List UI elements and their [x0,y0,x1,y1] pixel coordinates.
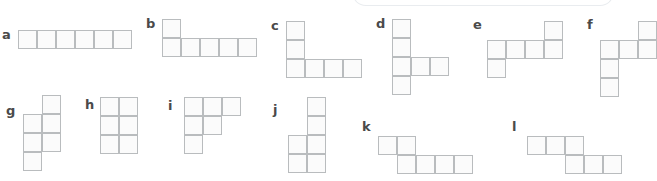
grid-cell [162,38,181,57]
figure-label-j: j [273,103,277,116]
grid-cell [487,40,506,59]
grid-cell [454,155,473,174]
grid-cell [544,21,563,40]
grid-cell [600,40,619,59]
figure-label-b: b [146,17,155,30]
grid-cell [435,155,454,174]
grid-cell [75,30,94,49]
grid-cell [307,154,326,173]
grid-cell [56,30,75,49]
grid-cell [119,116,138,135]
grid-cell [600,78,619,97]
grid-cell [286,40,305,59]
grid-cell [397,136,416,155]
grid-cell [288,135,307,154]
grid-cell [288,154,307,173]
grid-cell [184,135,203,154]
grid-cell [307,135,326,154]
figure-label-l: l [512,120,516,133]
grid-cell [37,30,56,49]
grid-cell [392,57,411,76]
grid-cell [23,114,42,133]
figure-label-a: a [2,28,11,41]
grid-cell [430,57,449,76]
grid-cell [113,30,132,49]
figure-label-e: e [473,18,482,31]
grid-cell [638,40,657,59]
grid-cell [584,155,603,174]
grid-cell [525,40,544,59]
grid-cell [100,97,119,116]
grid-cell [222,97,241,116]
grid-cell [119,97,138,116]
grid-cell [286,21,305,40]
grid-cell [544,40,563,59]
grid-cell [565,155,584,174]
grid-cell [203,116,222,135]
figure-label-k: k [362,120,371,133]
grid-cell [378,136,397,155]
grid-cell [527,136,546,155]
grid-cell [487,59,506,78]
grid-cell [23,152,42,171]
grid-cell [603,155,622,174]
grid-cell [307,97,326,116]
grid-cell [411,57,430,76]
grid-cell [638,21,657,40]
grid-cell [42,95,61,114]
grid-cell [119,135,138,154]
grid-cell [184,116,203,135]
figure-label-i: i [168,99,172,112]
grid-cell [305,59,324,78]
grid-cell [343,59,362,78]
figure-label-f: f [587,18,593,31]
cut-off-rounded-panel [352,0,614,6]
grid-cell [324,59,343,78]
grid-cell [392,19,411,38]
figure-label-h: h [85,98,94,111]
grid-cell [23,133,42,152]
figure-label-d: d [376,17,385,30]
grid-cell [200,38,219,57]
grid-cell [181,38,200,57]
figure-label-g: g [6,104,15,117]
grid-cell [42,114,61,133]
grid-cell [392,38,411,57]
grid-cell [100,116,119,135]
grid-cell [100,135,119,154]
grid-cell [565,136,584,155]
figure-label-c: c [271,19,279,32]
grid-cell [397,155,416,174]
grid-cell [416,155,435,174]
grid-cell [42,133,61,152]
grid-cell [307,116,326,135]
grid-cell [600,59,619,78]
grid-cell [238,38,257,57]
grid-cell [546,136,565,155]
grid-cell [619,40,638,59]
grid-cell [162,19,181,38]
grid-cell [392,76,411,95]
grid-cell [18,30,37,49]
grid-cell [184,97,203,116]
grid-cell [203,97,222,116]
grid-cell [286,59,305,78]
grid-cell [506,40,525,59]
grid-cell [219,38,238,57]
grid-cell [94,30,113,49]
